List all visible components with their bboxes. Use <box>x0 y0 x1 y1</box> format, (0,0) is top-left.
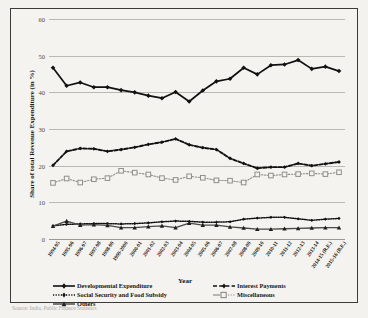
plot-area: 0102030405060 <box>49 19 345 239</box>
x-tick-label: 1997-98 <box>87 240 102 258</box>
y-axis-title-text: Share of total Revenue Expenditure (in %… <box>28 70 36 198</box>
y-tick-label: 50 <box>39 52 46 59</box>
chart-screenshot: Share of total Revenue Expenditure (in %… <box>0 0 368 318</box>
y-tick-label: 20 <box>39 162 46 169</box>
data-point <box>160 220 163 223</box>
data-point <box>201 175 206 180</box>
data-point <box>119 169 124 174</box>
legend-item-miscellaneous: Miscellaneous <box>213 291 353 299</box>
data-point <box>337 217 340 220</box>
data-point <box>51 181 56 186</box>
data-point <box>147 221 150 224</box>
data-point <box>119 222 122 225</box>
x-tick-label: 2002-03 <box>155 240 170 258</box>
data-point <box>310 219 313 222</box>
data-point <box>105 85 110 90</box>
x-tick-label: 2003-04 <box>169 240 184 258</box>
data-point <box>146 172 151 177</box>
data-point <box>241 180 246 185</box>
y-axis-title: Share of total Revenue Expenditure (in %… <box>24 59 40 209</box>
legend-row: Developmental Expenditure Interest Payme… <box>53 281 353 290</box>
data-point <box>65 223 68 226</box>
x-tick-label: 1994-95 <box>46 240 61 258</box>
data-point <box>310 164 314 168</box>
x-tick-labels: 1994-951995-961996-971997-981998-991999-… <box>49 240 345 282</box>
x-tick-label: 2000-01 <box>128 240 143 258</box>
legend-swatch-solid-diamond-icon <box>53 282 75 290</box>
data-point <box>119 148 123 152</box>
series-others <box>51 219 341 231</box>
data-point <box>64 176 69 181</box>
data-point <box>146 143 150 147</box>
data-point <box>282 62 287 67</box>
data-point <box>160 176 165 181</box>
x-tick-label: 2009-10 <box>250 240 265 258</box>
data-point <box>132 90 137 95</box>
data-point <box>242 218 245 221</box>
legend-swatch-dotted-icon <box>53 291 75 299</box>
figure-frame: Share of total Revenue Expenditure (in %… <box>10 8 358 303</box>
legend-label: Miscellaneous <box>237 291 275 298</box>
x-tick-label: 2004-05 <box>182 240 197 258</box>
data-point <box>174 219 177 222</box>
data-point <box>78 147 82 151</box>
x-tick-label: 1996-97 <box>73 240 88 258</box>
data-point <box>92 85 97 90</box>
x-tick-label: 2006-07 <box>210 240 225 258</box>
data-point <box>323 64 328 69</box>
data-point <box>269 165 273 169</box>
data-point <box>119 88 124 93</box>
data-point <box>337 170 342 175</box>
data-point <box>269 173 274 178</box>
data-point <box>228 178 233 183</box>
data-point <box>133 145 137 149</box>
data-point <box>78 180 83 185</box>
data-point <box>146 93 151 98</box>
y-tick-label: 0 <box>42 236 45 243</box>
data-point <box>105 176 110 181</box>
data-point <box>255 172 260 177</box>
x-tick-label: 2008-09 <box>237 240 252 258</box>
legend-item-social-security-and-food-subsidy: Social Security and Food Subsidy <box>53 291 213 299</box>
data-point <box>323 162 327 166</box>
x-tick-label: 2007-08 <box>223 240 238 258</box>
legend-label: Social Security and Food Subsidy <box>77 291 167 298</box>
data-point <box>228 220 231 223</box>
data-point <box>133 222 136 225</box>
data-point <box>187 174 192 179</box>
data-point <box>337 69 342 74</box>
y-tick-label: 60 <box>39 16 46 23</box>
x-tick-label: 2005-06 <box>196 240 211 258</box>
legend-swatch-dashed-icon <box>213 282 235 290</box>
series-interest-payments <box>51 137 341 170</box>
legend-swatch-open-square-icon <box>213 291 235 299</box>
data-point <box>283 216 286 219</box>
data-point <box>132 170 137 175</box>
legend-item-interest-payments: Interest Payments <box>213 282 353 290</box>
series-lines <box>49 19 345 239</box>
legend-row: Social Security and Food Subsidy Miscell… <box>53 290 353 299</box>
x-tick-label: 2010-11 <box>264 240 279 257</box>
data-point <box>106 149 110 153</box>
series-developmental-expenditure <box>51 58 342 104</box>
data-point <box>282 172 287 177</box>
data-point <box>256 217 259 220</box>
legend-label: Interest Payments <box>237 282 286 289</box>
y-tick-label: 30 <box>39 126 46 133</box>
x-tick-label: 1995-96 <box>60 240 75 258</box>
chart-legend: Developmental Expenditure Interest Payme… <box>53 281 353 308</box>
x-tick-label: 2011-12 <box>278 240 293 257</box>
x-tick-label: 2012-13 <box>291 240 306 258</box>
data-point <box>323 172 328 177</box>
figure-caption: Source: India, Public Finance Statistics <box>12 305 352 311</box>
data-point <box>337 160 341 164</box>
data-point <box>92 147 96 151</box>
data-point <box>297 217 300 220</box>
series-miscellaneous <box>51 169 342 186</box>
x-tick-label: 2001-02 <box>141 240 156 258</box>
data-point <box>296 172 301 177</box>
data-point <box>201 146 205 150</box>
data-point <box>324 218 327 221</box>
data-point <box>92 177 97 182</box>
data-point <box>214 178 219 183</box>
